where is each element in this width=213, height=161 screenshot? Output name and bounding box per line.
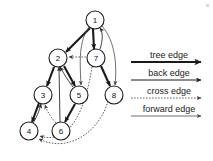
node-4[interactable]: 4 [20,122,38,140]
edge-6-to-3-cross [45,105,56,123]
legend-item-cross: cross edge [131,86,201,98]
legend-item-tree: tree edge [131,50,201,62]
edge-2-to-3-tree [47,67,54,86]
legend-label-forward: forward edge [143,104,196,114]
legend-label-back: back edge [148,68,190,78]
graph-nodes: 12345678 [20,11,123,140]
legend-label-tree: tree edge [150,50,188,60]
node-3-label: 3 [41,91,46,100]
graph-figure: 12345678 tree edgeback edgecross edgefor… [0,0,213,161]
legend-label-cross: cross edge [147,86,191,96]
legend-item-back: back edge [131,68,201,80]
edge-1-to-7-tree [93,29,94,49]
edge-5-to-6-tree [65,104,75,122]
edge-7-to-8-tree [101,66,110,86]
node-6[interactable]: 6 [52,122,70,140]
edge-7-to-1-back [100,28,102,49]
node-8[interactable]: 8 [105,86,123,104]
legend-item-forward: forward edge [131,104,201,116]
figure-canvas: 12345678 tree edgeback edgecross edgefor… [0,0,213,161]
node-2-label: 2 [56,54,61,63]
edge-6-to-2-back [59,67,60,122]
edge-type-legend: tree edgeback edgecross edgeforward edge [131,50,201,116]
node-2[interactable]: 2 [49,49,67,67]
node-6-label: 6 [59,127,64,136]
node-4-label: 4 [27,127,32,136]
node-8-label: 8 [112,91,117,100]
node-1-label: 1 [93,16,98,25]
node-1[interactable]: 1 [86,11,104,29]
node-7-label: 7 [94,54,99,63]
corner-artifact [206,4,209,7]
graph-edges [32,26,116,144]
node-5-label: 5 [77,91,82,100]
node-7[interactable]: 7 [87,49,105,67]
node-5[interactable]: 5 [70,86,88,104]
node-3[interactable]: 3 [34,86,52,104]
